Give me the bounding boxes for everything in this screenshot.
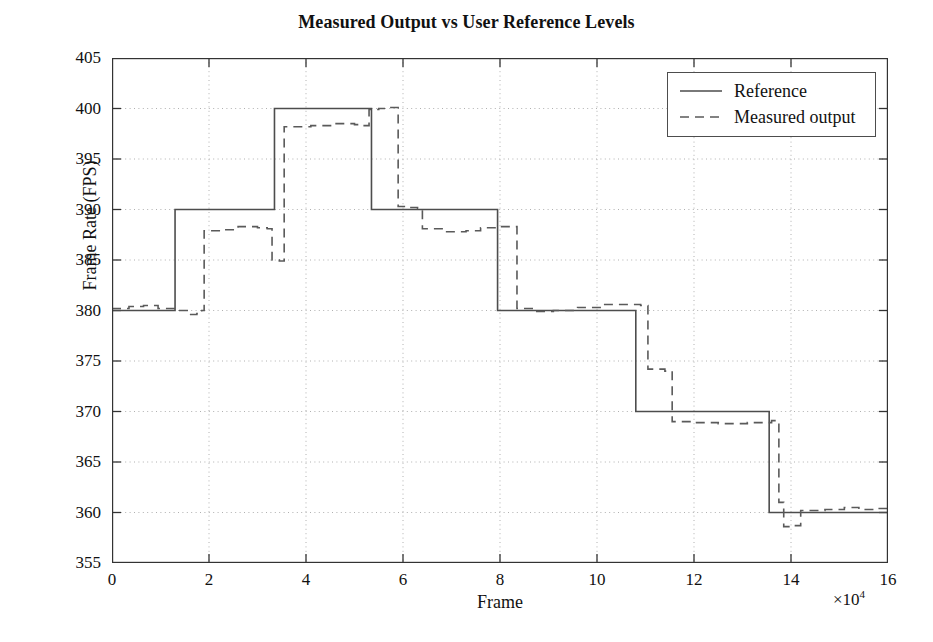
x-tick-label: 12: [686, 570, 703, 590]
legend-sample-dashed-line: [678, 111, 724, 123]
y-tick-label: 405: [76, 48, 102, 68]
x-tick-label: 14: [783, 570, 800, 590]
y-tick-label: 375: [76, 351, 102, 371]
legend-item-reference: Reference: [668, 78, 875, 104]
x-tick-label: 4: [302, 570, 311, 590]
series-path-reference: [112, 109, 888, 513]
legend-label-reference: Reference: [734, 81, 807, 102]
x-axis-label: Frame: [112, 592, 888, 613]
y-tick-label: 355: [76, 553, 102, 573]
y-tick-label: 370: [76, 402, 102, 422]
x-tick-label: 8: [496, 570, 505, 590]
x-tick-label: 6: [399, 570, 408, 590]
x-exponent-power: 4: [860, 588, 866, 600]
y-tick-label: 360: [76, 503, 102, 523]
chart-legend: Reference Measured output: [667, 72, 876, 137]
x-tick-label: 10: [589, 570, 606, 590]
chart-title: Measured Output vs User Reference Levels: [0, 12, 933, 33]
y-axis-label: Frame Rate (FPS): [80, 116, 101, 336]
y-tick-label: 365: [76, 452, 102, 472]
x-tick-label: 2: [205, 570, 214, 590]
chart-figure: Measured Output vs User Reference Levels…: [0, 0, 933, 642]
legend-item-measured-output: Measured output: [668, 104, 875, 130]
x-tick-label: 0: [108, 570, 117, 590]
legend-sample-solid-line: [678, 85, 724, 97]
x-tick-label: 16: [880, 570, 897, 590]
x-exponent-base: ×10: [833, 590, 860, 609]
x-axis-exponent: ×104: [833, 588, 865, 610]
legend-label-measured-output: Measured output: [734, 107, 855, 128]
